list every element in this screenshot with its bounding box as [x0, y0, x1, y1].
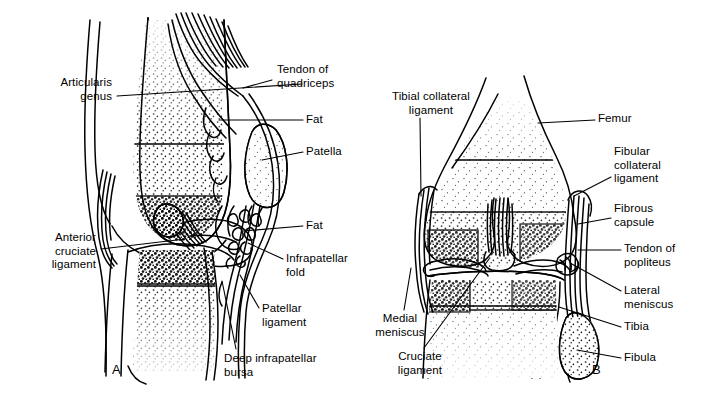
label-tendon-of-quadriceps: Tendon of quadriceps: [277, 63, 373, 90]
label-tibial-collateral-ligament: Tibial collateral ligament: [372, 90, 490, 117]
panel-letter-a: A: [112, 362, 121, 377]
label-fibrous-capsule: Fibrous capsule: [614, 202, 694, 229]
leader-line-infrapatellar-fold: [248, 243, 283, 259]
label-fibular-collateral-ligament: Fibular collateral ligament: [614, 145, 694, 186]
label-articularis-genus: Articularis genus: [20, 76, 112, 103]
label-tibia: Tibia: [624, 320, 684, 334]
leader-line-tibial-collateral-ligament: [420, 118, 421, 196]
label-fibula: Fibula: [624, 351, 684, 365]
leader-line-lateral-meniscus: [570, 263, 621, 291]
leader-line-medial-meniscus: [404, 268, 411, 310]
label-fat-lower: Fat: [306, 219, 346, 233]
label-anterior-cruciate-ligament: Anterior cruciate ligament: [16, 231, 96, 272]
label-fat-upper: Fat: [306, 113, 346, 127]
knee-joint-figure: Articularis genusTendon of quadricepsFat…: [0, 0, 704, 400]
panel-letter-b: B: [592, 362, 601, 377]
label-infrapatellar-fold: Infrapatellar fold: [286, 252, 380, 279]
label-femur: Femur: [598, 112, 658, 126]
label-medial-meniscus: Medial meniscus: [362, 312, 438, 339]
leader-line-fibular-collateral-ligament: [574, 177, 611, 196]
label-tendon-of-popliteus: Tendon of popliteus: [624, 242, 704, 269]
label-patellar-ligament: Patellar ligament: [262, 302, 338, 329]
label-cruciate-ligament: Cruciate ligament: [382, 350, 458, 377]
label-patella: Patella: [306, 145, 366, 159]
label-deep-infrapatellar-bursa: Deep infrapatellar bursa: [224, 352, 360, 379]
label-lateral-meniscus: Lateral meniscus: [624, 284, 704, 311]
knee-anatomy-drawing: [0, 0, 704, 400]
leader-line-femur: [538, 120, 595, 123]
